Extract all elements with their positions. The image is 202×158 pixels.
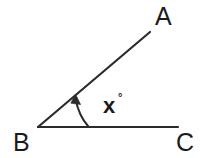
point-label-c: C xyxy=(176,128,194,156)
angle-diagram-svg: A B C x ° xyxy=(0,0,202,158)
point-label-b: B xyxy=(13,128,30,156)
diagram-background xyxy=(0,0,202,158)
angle-variable-label: x xyxy=(103,93,116,118)
point-label-a: A xyxy=(155,2,172,30)
angle-diagram-canvas: A B C x ° xyxy=(0,0,202,158)
degree-symbol-icon: ° xyxy=(118,91,122,103)
